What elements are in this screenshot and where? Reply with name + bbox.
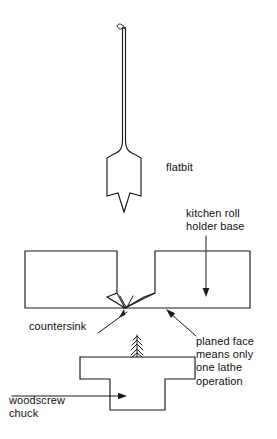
label-woodscrew-chuck-line1: woodscrew [9,394,65,406]
woodscrew-chuck-shape [80,357,195,410]
label-planed-face-line3: one lathe [196,361,242,373]
label-planed-face-line1: planed face [196,335,254,347]
flatbit-shape [107,24,141,212]
label-woodscrew-chuck-line2: chuck [9,407,38,419]
label-flatbit: flatbit [166,161,193,174]
leader-kitchen-roll-holder-base [203,236,210,297]
label-kitchen-roll-holder-base-line2: holder base [186,220,245,232]
label-planed-face: planed facemeans onlyone latheoperation [196,335,254,388]
label-planed-face-line2: means only [196,348,253,360]
woodscrew-shape [131,335,143,357]
diagram-canvas: flatbit kitchen rollholder base counters… [0,0,277,439]
leader-countersink [98,309,127,333]
kitchen-roll-holder-base-shape [25,251,250,308]
label-woodscrew-chuck: woodscrewchuck [9,394,65,420]
label-countersink: countersink [29,320,86,333]
label-planed-face-line4: operation [196,375,243,387]
label-kitchen-roll-holder-base: kitchen rollholder base [186,207,245,233]
label-kitchen-roll-holder-base-line1: kitchen roll [186,207,240,219]
leader-planed-face [166,309,196,336]
